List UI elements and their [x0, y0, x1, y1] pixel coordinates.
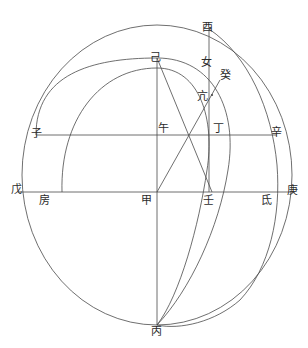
label-jia: 甲: [141, 195, 152, 206]
label-nv: 女: [201, 57, 212, 68]
label-wu-stem: 戊: [11, 184, 22, 195]
label-ding: 丁: [213, 123, 224, 134]
right-outer-arc-curve: [157, 29, 278, 326]
label-wu: 午: [158, 123, 169, 134]
label-you: 酉: [202, 22, 213, 33]
diagonal-line-jia-gui: [157, 80, 220, 192]
inner-arc-curve: [62, 68, 209, 325]
label-di: 氐: [261, 195, 272, 206]
astronomical-diagram: 酉 己 女 癸 亢 子 午 丁 辛 戊 房 甲 壬 氐 庚 丙: [0, 0, 308, 348]
label-fang: 房: [39, 195, 50, 206]
label-xin: 辛: [271, 127, 282, 138]
label-geng: 庚: [287, 185, 298, 196]
label-ren: 壬: [203, 195, 214, 206]
label-ji: 己: [150, 52, 161, 63]
label-bing: 丙: [151, 326, 162, 337]
label-kang: 亢: [197, 91, 208, 102]
label-zi: 子: [31, 128, 42, 139]
label-gui: 癸: [220, 70, 231, 81]
node-point-kang: [211, 94, 213, 96]
